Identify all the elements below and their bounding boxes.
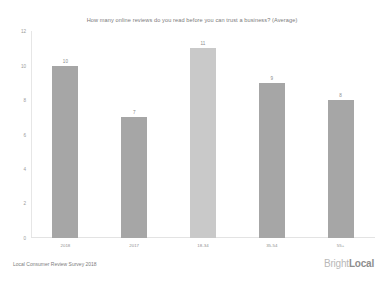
x-axis-category-label: 55+ — [337, 243, 344, 248]
bar-series: 10 2018 7 2017 11 18-34 9 35-5 — [31, 31, 375, 238]
logo-primary-text: Bright — [324, 258, 349, 269]
bar-value-label: 7 — [133, 110, 136, 115]
bar[interactable]: 8 — [328, 100, 354, 238]
brightlocal-logo: BrightLocal — [324, 258, 374, 270]
y-axis-tick-label: 4 — [23, 167, 26, 172]
bar[interactable]: 10 — [52, 66, 78, 239]
y-axis-tick-label: 2 — [23, 201, 26, 206]
y-axis-tick-label: 6 — [23, 132, 26, 137]
x-axis-category-label: 2018 — [61, 243, 71, 248]
x-axis-category-label: 2017 — [129, 243, 139, 248]
y-axis-tick-label: 10 — [21, 63, 26, 68]
bar-value-label: 8 — [339, 93, 342, 98]
bar[interactable]: 9 — [259, 83, 285, 238]
logo-secondary-text: Local — [349, 258, 374, 269]
bar-value-label: 11 — [201, 41, 206, 46]
x-axis-category-label: 18-34 — [197, 243, 208, 248]
chart-title: How many online reviews do you read befo… — [0, 17, 384, 23]
bar[interactable]: 11 — [190, 48, 216, 238]
chart-container: How many online reviews do you read befo… — [0, 0, 384, 282]
bar-slot: 9 35-54 — [238, 31, 305, 238]
bar-slot: 11 18-34 — [170, 31, 237, 238]
bar-slot: 10 2018 — [32, 31, 99, 238]
bar-value-label: 9 — [271, 76, 274, 81]
y-axis-tick-label: 8 — [23, 97, 26, 102]
bar[interactable]: 7 — [121, 117, 147, 238]
y-axis-tick-label: 0 — [23, 236, 26, 241]
plot-area: 12 10 8 6 4 2 0 10 2018 7 2017 11 — [31, 31, 375, 238]
bar-slot: 7 2017 — [101, 31, 168, 238]
y-axis-tick-label: 12 — [21, 29, 26, 34]
bar-value-label: 10 — [63, 59, 68, 64]
source-note: Local Consumer Review Survey 2018 — [13, 261, 97, 267]
x-axis-category-label: 35-54 — [266, 243, 277, 248]
bar-slot: 8 55+ — [307, 31, 374, 238]
